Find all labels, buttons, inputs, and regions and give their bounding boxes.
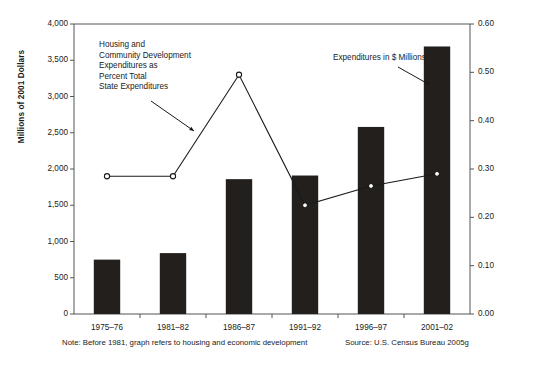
y-tick-label-left: 4,000 <box>22 19 68 28</box>
bar <box>160 253 186 314</box>
plot-area <box>0 0 544 367</box>
x-category-label: 2001–02 <box>397 323 477 332</box>
y-tick-label-right: 0.10 <box>478 261 518 270</box>
y-tick-label-left: 500 <box>22 273 68 282</box>
line-series-callout-line: Community Development <box>99 51 191 62</box>
y-tick-label-right: 0.60 <box>478 19 518 28</box>
y-tick-label-right: 0.00 <box>478 309 518 318</box>
y-tick-label-left: 3,000 <box>22 92 68 101</box>
line-marker <box>170 174 175 179</box>
line-marker <box>436 172 439 175</box>
y-tick-label-left: 1,000 <box>22 237 68 246</box>
line-series-callout: Housing andCommunity DevelopmentExpendit… <box>99 40 191 93</box>
note-text: Note: Before 1981, graph refers to housi… <box>62 338 307 347</box>
bar <box>226 179 252 314</box>
bar <box>94 260 120 314</box>
y-tick-label-left: 1,500 <box>22 200 68 209</box>
y-tick-label-left: 3,500 <box>22 55 68 64</box>
y-tick-label-left: 2,500 <box>22 128 68 137</box>
line-series-callout-line: Expenditures as <box>99 61 191 72</box>
line-marker <box>104 174 109 179</box>
y-tick-label-right: 0.30 <box>478 164 518 173</box>
source-text: Source: U.S. Census Bureau 2005g <box>345 338 469 347</box>
line-series-callout-line: Percent Total <box>99 72 191 83</box>
y-tick-label-left: 2,000 <box>22 164 68 173</box>
y-tick-label-right: 0.40 <box>478 116 518 125</box>
y-tick-label-right: 0.20 <box>478 212 518 221</box>
chart-figure: Millions of 2001 Dollars Percent of Tota… <box>0 0 544 367</box>
line-marker <box>304 204 307 207</box>
bar <box>424 46 450 314</box>
bar <box>292 176 318 314</box>
line-series-callout-line: State Expenditures <box>99 82 191 93</box>
bar-series-callout: Expenditures in $ Millions <box>333 53 426 64</box>
y-tick-label-right: 0.50 <box>478 67 518 76</box>
line-marker <box>236 72 241 77</box>
line-marker <box>370 184 373 187</box>
y-tick-label-left: 0 <box>22 309 68 318</box>
bar <box>358 127 384 314</box>
line-series-callout-line: Housing and <box>99 40 191 51</box>
